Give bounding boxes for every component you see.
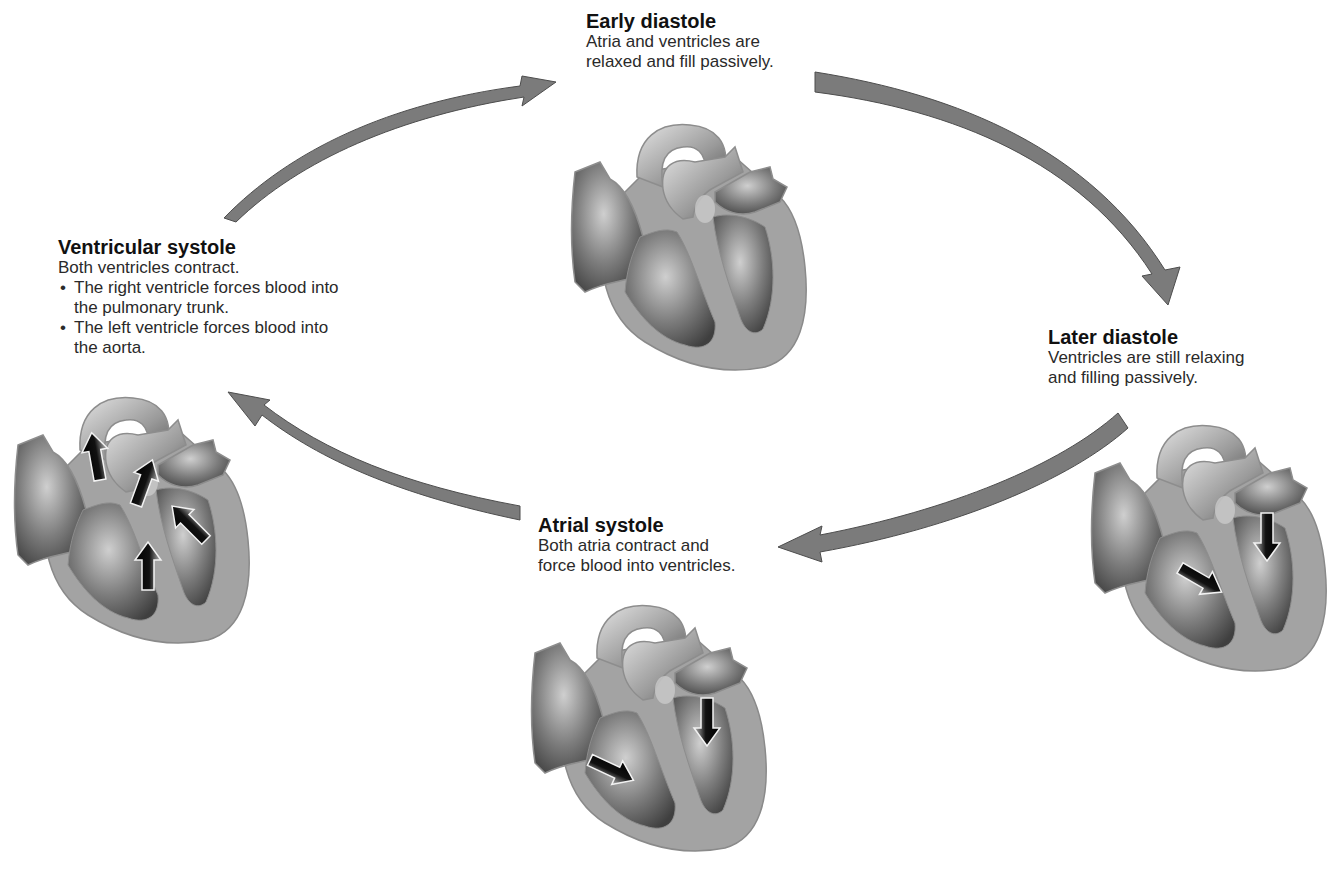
stage-bullets: The right ventricle forces blood into th… [58, 278, 378, 358]
stage-description: Ventricles are still relaxing and fillin… [1048, 348, 1245, 388]
stage-label-later-diastole: Later diastole Ventricles are still rela… [1048, 326, 1245, 388]
stage-description: Atria and ventricles are relaxed and fil… [586, 32, 774, 72]
stage-title: Atrial systole [538, 514, 736, 536]
stage-title: Early diastole [586, 10, 774, 32]
diagram-artwork [0, 0, 1341, 881]
bullet-left-ventricle: The left ventricle forces blood into the… [58, 318, 344, 358]
cycle-arrow-ventricular-to-early [224, 76, 556, 222]
stage-title: Later diastole [1048, 326, 1245, 348]
stage-title: Ventricular systole [58, 236, 378, 258]
cycle-arrow-later-to-atrial [778, 413, 1128, 562]
cycle-arrow-atrial-to-ventricular [228, 392, 520, 520]
heart-atrial-systole [532, 606, 767, 851]
cardiac-cycle-diagram: Early diastole Atria and ventricles are … [0, 0, 1341, 881]
cycle-arrow-early-to-later [815, 72, 1180, 305]
heart-later-diastole [1092, 426, 1327, 671]
bullet-right-ventricle: The right ventricle forces blood into th… [58, 278, 359, 318]
stage-description: Both ventricles contract. [58, 258, 378, 278]
stage-description: Both atria contract and force blood into… [538, 536, 736, 576]
stage-label-atrial-systole: Atrial systole Both atria contract and f… [538, 514, 736, 576]
stage-label-ventricular-systole: Ventricular systole Both ventricles cont… [58, 236, 378, 358]
heart-early-diastole [572, 125, 807, 370]
stage-label-early-diastole: Early diastole Atria and ventricles are … [586, 10, 774, 72]
heart-ventricular-systole [15, 398, 250, 643]
